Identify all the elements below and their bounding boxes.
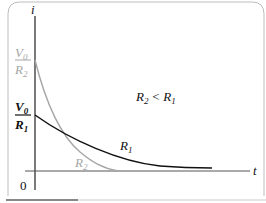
curve-r1-label: R1 [119, 138, 132, 155]
svg-text:R1: R1 [14, 117, 28, 134]
svg-text:R2: R2 [14, 62, 28, 79]
x-axis-label: t [253, 163, 257, 178]
svg-text:V0: V0 [15, 99, 29, 116]
condition-label: R2<R1 [135, 89, 176, 106]
rc-discharge-diagram: i t 0 V0 R2 V0 R1 R1 R2 R2<R1 [0, 0, 266, 203]
origin-label: 0 [20, 178, 27, 193]
y-axis-label: i [31, 2, 35, 17]
intercept-v0-r2: V0 R2 [14, 45, 31, 79]
curve-r2-label: R2 [74, 155, 88, 172]
intercept-v0-r1: V0 R1 [14, 99, 31, 134]
svg-text:V0: V0 [15, 45, 28, 62]
